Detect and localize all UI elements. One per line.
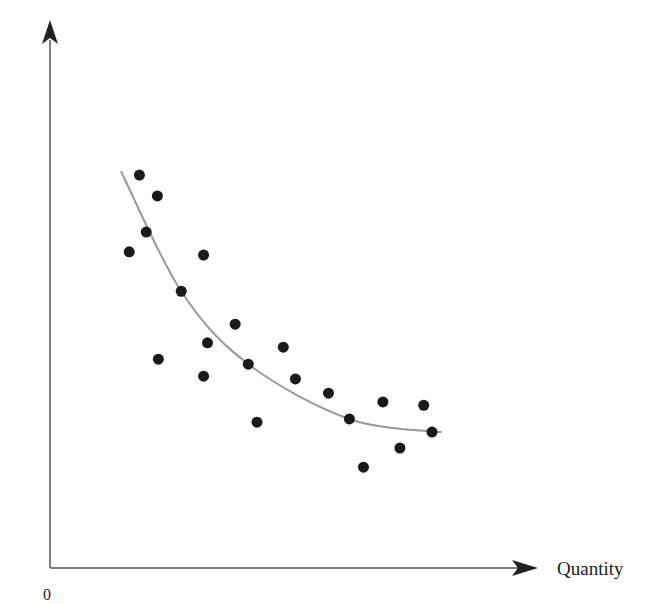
data-point <box>141 227 152 238</box>
data-point <box>418 400 429 411</box>
fitted-curve <box>121 171 442 432</box>
data-point <box>198 250 209 261</box>
data-point <box>252 417 263 428</box>
data-point <box>344 413 355 424</box>
x-axis <box>50 560 538 576</box>
data-point <box>278 342 289 353</box>
data-point <box>124 246 135 257</box>
fitted-curve-line <box>121 171 442 432</box>
x-axis-label: Quantity <box>557 558 624 580</box>
data-point <box>134 170 145 181</box>
data-point <box>394 442 405 453</box>
data-point <box>198 371 209 382</box>
data-point <box>153 354 164 365</box>
data-point <box>323 388 334 399</box>
data-point <box>358 462 369 473</box>
data-point <box>290 373 301 384</box>
data-point <box>230 319 241 330</box>
data-point <box>243 359 254 370</box>
data-point <box>377 396 388 407</box>
y-axis <box>42 20 58 568</box>
data-point <box>176 286 187 297</box>
data-point <box>202 337 213 348</box>
origin-label: 0 <box>43 586 51 604</box>
data-point <box>152 190 163 201</box>
data-point <box>426 427 437 438</box>
